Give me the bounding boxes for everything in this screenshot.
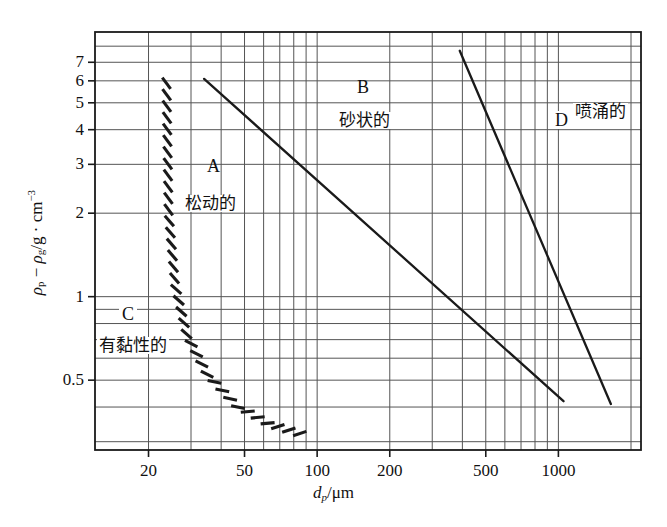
y-tick-label: 0.5 [63, 371, 84, 388]
y-tick-label: 7 [76, 53, 85, 70]
y-tick-label: 4 [76, 121, 85, 138]
y-tick-label: 5 [76, 94, 85, 111]
region-name-d: 喷涌的 [573, 103, 628, 120]
figure-root: 76543210.5 20501002005001000 A松动的B砂状的C有黏… [0, 0, 667, 527]
y-tick-label: 1 [76, 288, 85, 305]
region-letter-a: A [207, 157, 220, 175]
y-tick-label: 2 [76, 204, 85, 221]
y-axis-ticks [88, 62, 95, 380]
x-tick-label: 500 [446, 462, 526, 479]
x-axis-title: dp/μm [0, 483, 667, 503]
boundary-curves [162, 51, 611, 436]
region-letter-d: D [552, 111, 571, 129]
y-axis-title: ρp − ρg/g · cm−3 [25, 113, 46, 373]
x-tick-label: 200 [350, 462, 430, 479]
x-tick-label: 50 [205, 462, 285, 479]
region-name-c: 有黏性的 [97, 337, 169, 354]
geldart-chart-canvas [0, 0, 667, 527]
x-tick-label: 1000 [518, 462, 598, 479]
region-letter-b: B [357, 78, 369, 96]
x-tick-label: 100 [277, 462, 357, 479]
y-tick-label: 3 [76, 155, 85, 172]
x-tick-label: 20 [109, 462, 189, 479]
region-name-a: 松动的 [183, 195, 238, 212]
region-name-b: 砂状的 [337, 112, 392, 129]
y-tick-label: 6 [76, 72, 85, 89]
x-axis-ticks [149, 450, 559, 457]
region-letter-c: C [119, 305, 137, 323]
